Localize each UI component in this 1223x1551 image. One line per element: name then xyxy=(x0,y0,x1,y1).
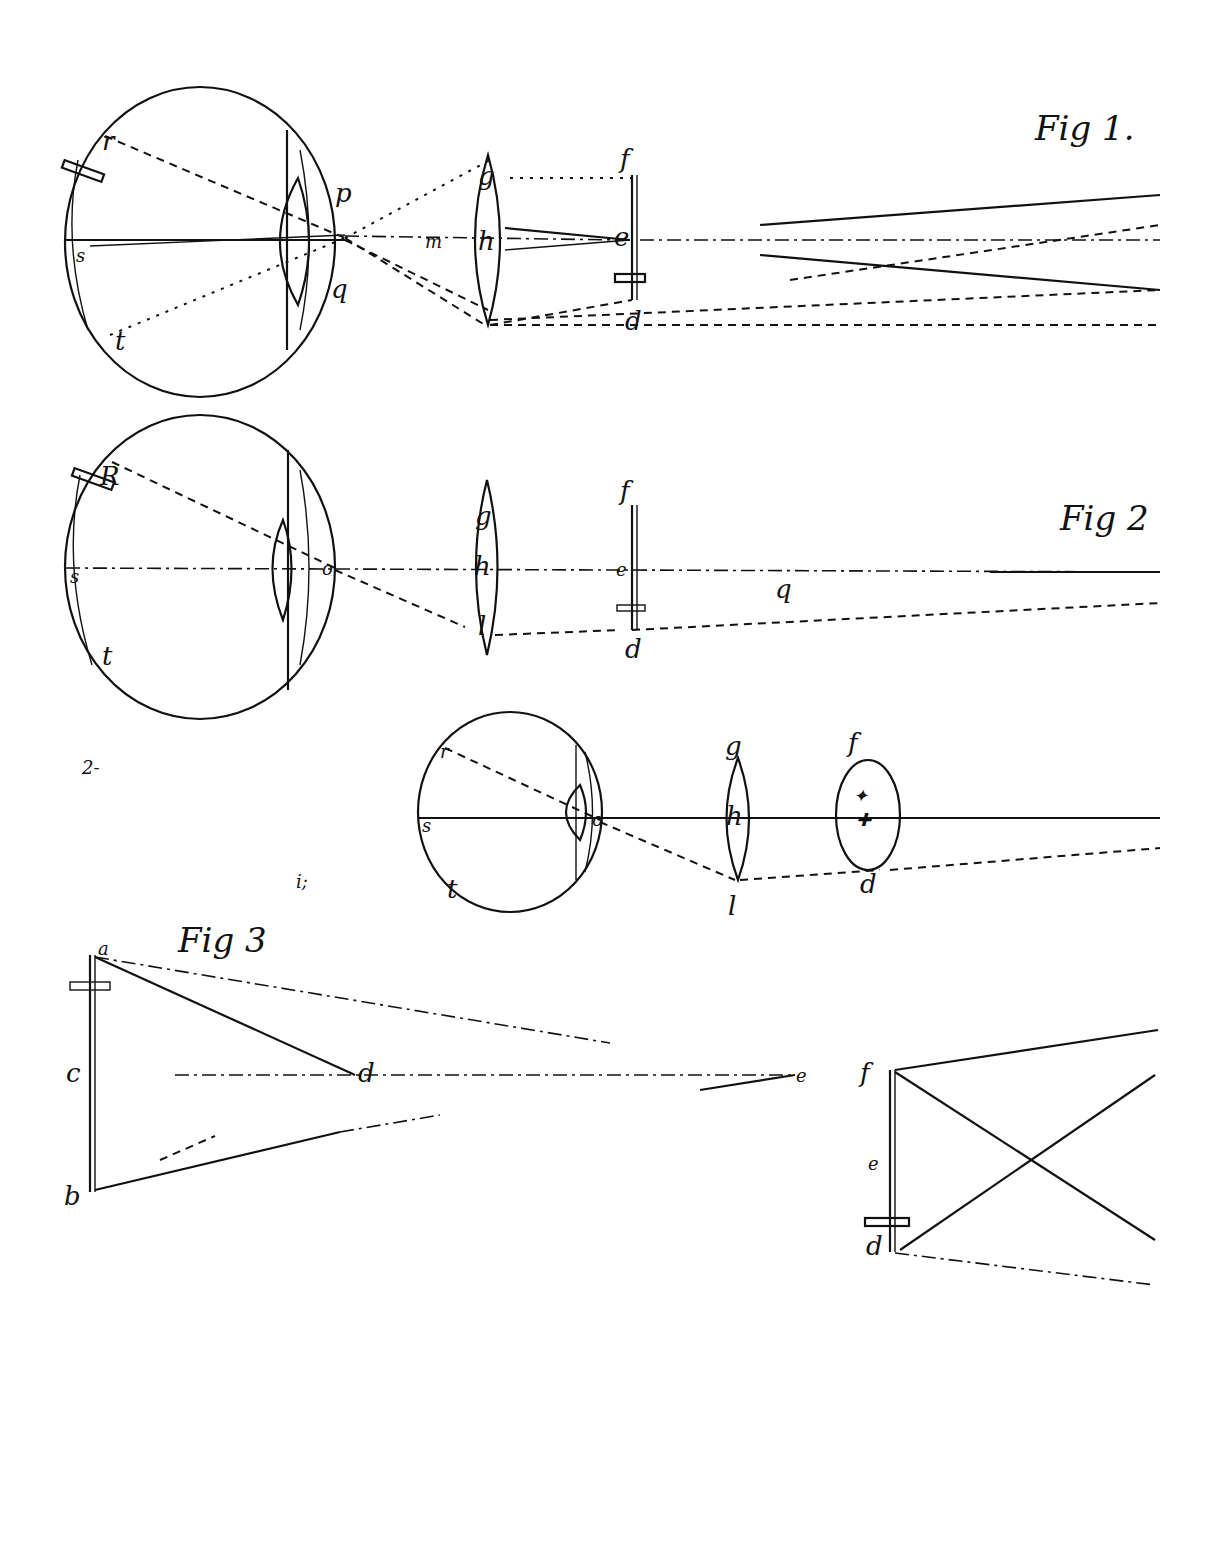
figure-2-title: Fig 2 xyxy=(1059,498,1149,538)
label-h: h xyxy=(478,226,495,256)
label-h: h xyxy=(474,551,491,581)
label-d: d xyxy=(860,869,877,899)
figure-1-title: Fig 1. xyxy=(1034,108,1134,148)
label-t: t xyxy=(115,326,126,356)
label-c: c xyxy=(66,1058,81,1088)
label-h: h xyxy=(726,801,743,831)
label-e: e xyxy=(796,1065,807,1086)
label-o: o xyxy=(592,809,603,830)
label-f: f xyxy=(858,1058,874,1088)
label-b: b xyxy=(64,1181,81,1211)
label-r: r xyxy=(440,741,450,762)
label-R: R xyxy=(99,461,120,491)
label-s: s xyxy=(70,566,79,587)
figure-2b: ✦ ✚ r s t o g h l f d 2- i; xyxy=(81,712,1160,921)
label-p: p xyxy=(335,178,352,208)
cross-glyph: ✚ xyxy=(856,809,873,830)
label-g: g xyxy=(475,501,492,531)
label-t: t xyxy=(102,641,113,671)
label-t: t xyxy=(447,874,458,904)
figure-3b: f e d xyxy=(858,1030,1158,1285)
label-s: s xyxy=(76,245,85,266)
label-d: d xyxy=(625,306,642,336)
figure-3-title: Fig 3 xyxy=(177,920,267,960)
fish-glyph: ✦ xyxy=(853,785,869,806)
label-r: r xyxy=(102,126,116,156)
figure-3: Fig 3 a c b d e xyxy=(64,920,807,1211)
figure-2: Fig 2 R s t o g h l f e d q xyxy=(65,415,1160,719)
label-e: e xyxy=(616,559,627,580)
side-mark-1: 2- xyxy=(81,757,100,778)
label-g: g xyxy=(478,161,495,191)
side-mark-2: i; xyxy=(296,871,308,892)
label-l: l xyxy=(478,611,486,641)
label-f: f xyxy=(618,144,634,174)
label-e: e xyxy=(868,1153,879,1174)
figure-1: Fig 1. xyxy=(62,87,1160,397)
label-d: d xyxy=(866,1231,883,1261)
optics-plate: Fig 1. xyxy=(0,0,1223,1551)
label-l: l xyxy=(728,891,736,921)
label-q: q xyxy=(775,574,792,604)
label-f: f xyxy=(618,476,634,506)
label-g: g xyxy=(725,731,742,761)
label-o: o xyxy=(322,558,333,579)
label-s: s xyxy=(422,815,431,836)
label-e: e xyxy=(614,222,629,252)
label-a: a xyxy=(98,938,109,959)
label-d: d xyxy=(358,1058,375,1088)
label-d: d xyxy=(625,634,642,664)
crystalline-lens xyxy=(280,178,309,305)
label-m: m xyxy=(425,231,442,252)
label-f: f xyxy=(846,728,862,758)
label-q: q xyxy=(331,274,348,304)
